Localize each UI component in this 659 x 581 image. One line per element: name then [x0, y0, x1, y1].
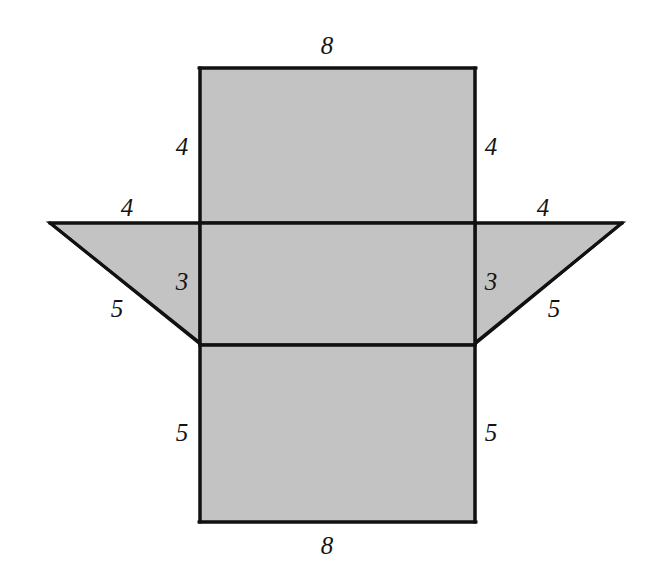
label-top-left-4: 4: [176, 134, 189, 159]
geometry-net-figure: 8 4 4 4 4 3 3 5 5 5 5 8: [0, 0, 659, 581]
middle-rectangle-face: [200, 223, 475, 345]
label-left-3: 3: [176, 269, 189, 294]
label-left-hyp-5: 5: [111, 296, 124, 321]
label-bottom-left-5: 5: [176, 420, 189, 445]
net-diagram-svg: [0, 0, 659, 581]
bottom-rectangle-face: [200, 345, 475, 522]
label-left-flap-top-4: 4: [121, 195, 134, 220]
label-right-flap-top-4: 4: [537, 195, 550, 220]
label-top-right-4: 4: [485, 134, 498, 159]
top-rectangle-face: [200, 68, 475, 223]
label-bottom-right-5: 5: [485, 420, 498, 445]
label-bottom-8: 8: [321, 533, 334, 558]
label-top-8: 8: [321, 33, 334, 58]
label-right-3: 3: [485, 269, 498, 294]
label-right-hyp-5: 5: [548, 296, 561, 321]
